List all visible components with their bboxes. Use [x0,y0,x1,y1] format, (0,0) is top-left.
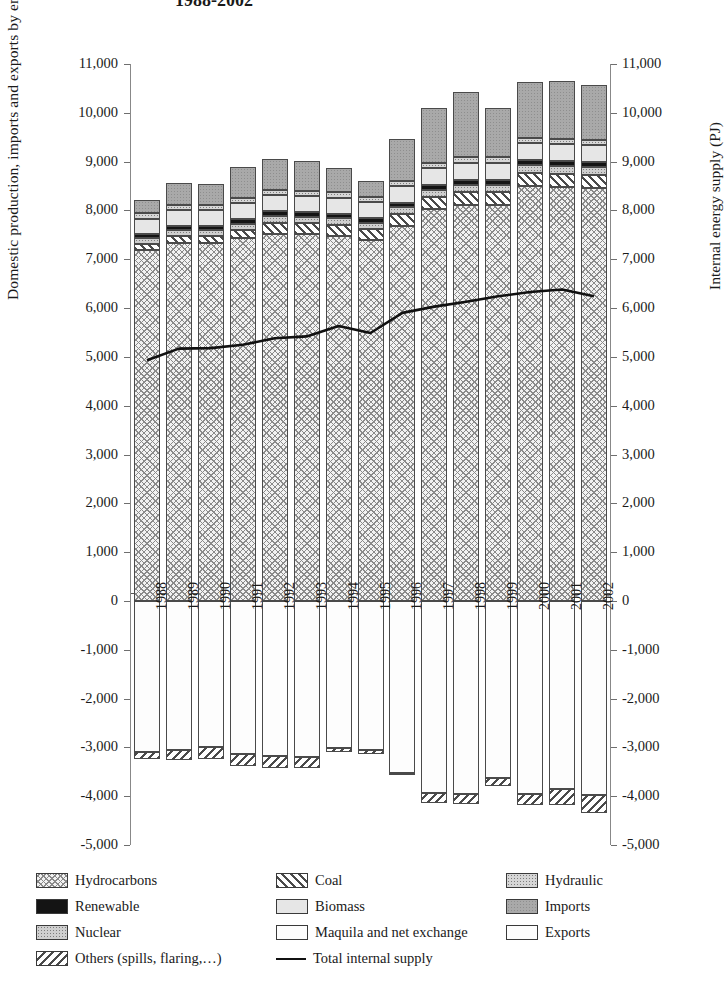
y-tick-left-4000: 4,000 [40,397,118,414]
y-tick-left-4000: -4,000 [40,787,118,804]
y-tick-right-7000: 7,000 [622,250,702,267]
y-tick-right-1000: 1,000 [622,543,702,560]
tickmark [124,162,130,163]
tickmark [124,503,130,504]
tickmark [124,747,130,748]
y-tick-right-1000: -1,000 [622,641,702,658]
x-tick-2000: 2000 [537,582,553,610]
y-tick-right-6000: 6,000 [622,299,702,316]
legend-item-maquila[interactable]: Maquila and net exchange [276,924,468,941]
x-tick-2001: 2001 [569,582,585,610]
legend-swatch-imports [506,899,538,914]
tickmark [611,455,617,456]
y-tick-right-3000: -3,000 [622,738,702,755]
legend-item-imports[interactable]: Imports [506,898,590,915]
legend-swatch-renewable [36,899,68,914]
x-tick-1996: 1996 [409,582,425,610]
y-tick-right-5000: 5,000 [622,348,702,365]
legend-swatch-biomass [276,899,308,914]
legend-label-hydraulic: Hydraulic [545,872,603,889]
tickmark [611,64,617,65]
legend-item-coal[interactable]: Coal [276,872,342,889]
legend-label-nuclear: Nuclear [75,924,121,941]
plot-area [131,64,610,845]
y-tick-left-9000: 9,000 [40,153,118,170]
y-tick-right-3000: 3,000 [622,446,702,463]
tickmark [124,406,130,407]
y-tick-right-4000: -4,000 [622,787,702,804]
y-tick-left-1000: 1,000 [40,543,118,560]
y-tick-right-5000: -5,000 [622,836,702,853]
legend-label-hydrocarbons: Hydrocarbons [75,872,157,889]
legend-label-imports: Imports [545,898,590,915]
legend-item-hydrocarbons[interactable]: Hydrocarbons [36,872,157,889]
x-tick-1993: 1993 [314,582,330,610]
y-tick-left-0: 0 [40,592,118,609]
tickmark [124,308,130,309]
tickmark [124,699,130,700]
legend-line-swatch-total-internal-supply [276,958,306,960]
tickmark [611,308,617,309]
tickmark [124,601,130,602]
legend-label-exports: Exports [545,924,590,941]
tickmark [611,113,617,114]
tickmark [611,210,617,211]
tickmark [611,650,617,651]
legend-item-biomass[interactable]: Biomass [276,898,365,915]
tickmark [611,552,617,553]
x-tick-1992: 1992 [282,582,298,610]
y-axis-left-label: Domestic production, imports and exports… [4,0,22,300]
y-tick-left-5000: 5,000 [40,348,118,365]
legend-swatch-hydraulic [506,873,538,888]
legend-row: NuclearMaquila and net exchangeExports [36,924,696,950]
legend-label-total-internal-supply: Total internal supply [313,950,433,967]
x-tick-2002: 2002 [601,582,617,610]
tickmark [124,64,130,65]
tickmark [611,162,617,163]
y-tick-left-2000: 2,000 [40,494,118,511]
tickmark [124,455,130,456]
legend-item-hydraulic[interactable]: Hydraulic [506,872,603,889]
legend-label-renewable: Renewable [75,898,139,915]
legend-label-maquila: Maquila and net exchange [315,924,468,941]
legend-swatch-exports [506,925,538,940]
y-tick-right-11000: 11,000 [622,55,702,72]
y-tick-left-7000: 7,000 [40,250,118,267]
tickmark [611,259,617,260]
legend-item-nuclear[interactable]: Nuclear [36,924,121,941]
legend-item-total-internal-supply[interactable]: Total internal supply [276,950,433,967]
y-axis-right-label: Internal energy supply (PJ) [706,60,724,290]
legend-item-others[interactable]: Others (spills, flaring,…) [36,950,222,967]
tickmark [611,845,617,846]
y-tick-left-1000: -1,000 [40,641,118,658]
chart-title: 1988-2002 [175,0,253,11]
legend-swatch-nuclear [36,925,68,940]
x-tick-1990: 1990 [218,582,234,610]
tickmark [124,796,130,797]
x-tick-1995: 1995 [378,582,394,610]
x-tick-1994: 1994 [346,582,362,610]
tickmark [611,406,617,407]
x-tick-1999: 1999 [505,582,521,610]
legend-swatch-coal [276,873,308,888]
tickmark [124,845,130,846]
y-tick-left-10000: 10,000 [40,104,118,121]
tickmark [124,552,130,553]
legend-item-renewable[interactable]: Renewable [36,898,139,915]
tickmark [611,503,617,504]
legend-row: RenewableBiomassImports [36,898,696,924]
y-tick-right-9000: 9,000 [622,153,702,170]
y-tick-right-10000: 10,000 [622,104,702,121]
legend-swatch-others [36,951,68,966]
x-tick-1988: 1988 [154,582,170,610]
y-tick-left-2000: -2,000 [40,690,118,707]
y-tick-left-3000: 3,000 [40,446,118,463]
x-tick-1997: 1997 [441,582,457,610]
legend-row: Others (spills, flaring,…)Total internal… [36,950,696,976]
tickmark [124,259,130,260]
y-tick-left-8000: 8,000 [40,201,118,218]
legend-item-exports[interactable]: Exports [506,924,590,941]
y-tick-right-4000: 4,000 [622,397,702,414]
legend-swatch-hydrocarbons [36,873,68,888]
